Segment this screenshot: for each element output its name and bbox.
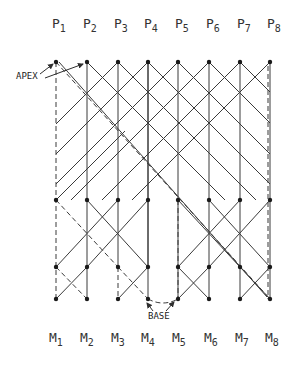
node xyxy=(85,297,89,301)
node xyxy=(85,265,89,269)
node xyxy=(268,265,272,269)
label-m3: M3 xyxy=(111,330,125,348)
label-p4: P4 xyxy=(144,16,158,34)
edge xyxy=(118,267,148,299)
node xyxy=(146,198,150,202)
edge xyxy=(87,62,225,200)
node xyxy=(238,198,242,202)
label-m6: M6 xyxy=(204,330,218,348)
label-m2: M2 xyxy=(80,330,94,348)
node xyxy=(176,198,180,202)
node xyxy=(176,297,180,301)
bottom-label-row: M1 M2 M3 M4 M5 M6 M7 M8 xyxy=(0,326,301,356)
node xyxy=(116,297,120,301)
node xyxy=(176,60,180,64)
top-label-row: P1 P2 P3 P4 P5 P6 P7 P8 xyxy=(0,0,301,40)
solid-edges xyxy=(56,62,270,299)
annotation-arrows xyxy=(40,64,174,311)
base-label: BASE xyxy=(148,311,170,321)
node xyxy=(207,297,211,301)
label-p1: P1 xyxy=(52,16,66,34)
node xyxy=(207,198,211,202)
node xyxy=(238,60,242,64)
node xyxy=(207,265,211,269)
node xyxy=(146,60,150,64)
node xyxy=(268,198,272,202)
label-m1: M1 xyxy=(49,330,63,348)
edge xyxy=(56,267,87,299)
label-m5: M5 xyxy=(172,330,186,348)
node xyxy=(54,198,58,202)
node xyxy=(146,265,150,269)
base-arrow-right xyxy=(166,302,174,311)
apex-label: APEX xyxy=(16,71,38,81)
node xyxy=(116,265,120,269)
node xyxy=(116,60,120,64)
node xyxy=(176,265,180,269)
label-p5: P5 xyxy=(175,16,189,34)
edge xyxy=(56,62,178,184)
node xyxy=(207,60,211,64)
node xyxy=(268,60,272,64)
node xyxy=(85,60,89,64)
label-p2: P2 xyxy=(83,16,97,34)
node xyxy=(146,297,150,301)
edge xyxy=(118,62,256,200)
label-p7: P7 xyxy=(237,16,251,34)
label-m7: M7 xyxy=(235,330,249,348)
node xyxy=(85,198,89,202)
edge xyxy=(132,62,270,200)
edge xyxy=(71,62,209,200)
node xyxy=(238,265,242,269)
label-m8: M8 xyxy=(265,330,279,348)
node xyxy=(54,60,58,64)
edge xyxy=(56,131,125,200)
node xyxy=(54,265,58,269)
node xyxy=(238,297,242,301)
label-m4: M4 xyxy=(141,330,155,348)
edge xyxy=(102,62,240,200)
node xyxy=(116,198,120,202)
edge xyxy=(56,62,148,154)
label-p8: P8 xyxy=(267,16,281,34)
node xyxy=(54,297,58,301)
label-p3: P3 xyxy=(114,16,128,34)
base-arrow-left xyxy=(147,303,153,311)
node xyxy=(268,297,272,301)
label-p6: P6 xyxy=(206,16,220,34)
apex-arrow-1 xyxy=(40,64,53,74)
